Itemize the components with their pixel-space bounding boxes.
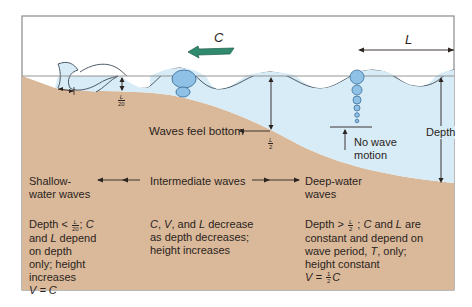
shallow-zone-description: Depth < L20; C and L depend on depth onl… [29, 218, 96, 297]
wavelength-label: L [405, 33, 412, 46]
l-over-2-fraction: L 2 [268, 137, 273, 150]
deep-zone-title: Deep-water waves [305, 175, 362, 201]
orbit-ellipse-large [172, 70, 196, 88]
wave-speed-label: C [214, 31, 223, 44]
intermediate-zone-description: C, V, and L decrease as depth decreases;… [150, 218, 253, 257]
shallow-zone-title: Shallow- water waves [29, 175, 90, 201]
l-over-20-fraction: L 20 [118, 94, 125, 107]
intermediate-zone-title: Intermediate waves [150, 175, 245, 188]
shallow-formula: V = C [29, 284, 96, 297]
depth-label: Depth [426, 126, 455, 139]
deep-zone-description: Depth > L2 ; C and L are constant and de… [305, 218, 423, 284]
no-wave-motion-label: No wave motion [354, 136, 397, 162]
waves-feel-bottom-label: Waves feel bottom [149, 125, 244, 138]
orbit-ellipse-small [176, 87, 190, 97]
deep-formula: V = 12C [305, 271, 423, 285]
